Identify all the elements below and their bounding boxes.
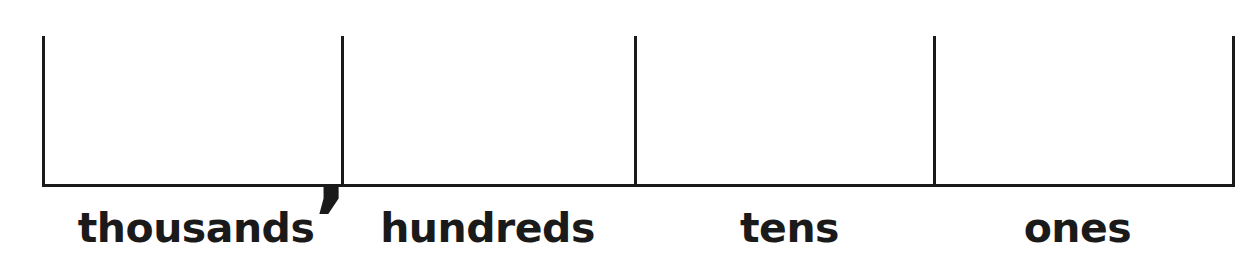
place-value-chart: , <box>0 0 1258 200</box>
column-label-thousands: thousands <box>46 200 346 267</box>
column-label-tens: tens <box>640 200 939 267</box>
column-label-hundreds: hundreds <box>341 200 634 267</box>
chart-left-edge <box>42 36 45 187</box>
place-value-chart-canvas: , thousands hundreds tens ones <box>0 0 1258 267</box>
column-label-ones: ones <box>928 200 1227 267</box>
chart-right-edge <box>1232 36 1235 187</box>
divider-tens-ones <box>933 36 936 187</box>
thousands-separator-comma: , <box>311 146 351 198</box>
chart-baseline <box>42 184 1235 187</box>
column-labels-row: thousands hundreds tens ones <box>0 200 1258 267</box>
divider-hundreds-tens <box>634 36 637 187</box>
